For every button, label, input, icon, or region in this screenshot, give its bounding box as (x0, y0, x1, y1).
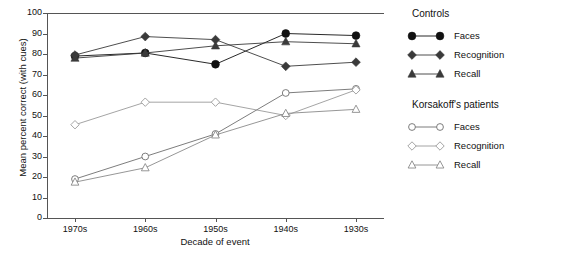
legend-item-label: Faces (454, 30, 480, 41)
legend-item-label: Recall (454, 159, 480, 170)
series-korsakoff-s-patients-recall (71, 105, 360, 185)
legend-item[interactable]: Recognition (404, 136, 556, 155)
filled-diamond-icon (404, 48, 450, 62)
legend-item-label: Recognition (454, 49, 504, 60)
legend-group-title-controls: Controls (412, 8, 556, 19)
filled-circle-icon (404, 29, 450, 43)
legend-group-title-korsakoff: Korsakoff's patients (412, 99, 556, 110)
open-circle-icon (404, 120, 450, 134)
filled-triangle-icon (404, 67, 450, 81)
legend-item-label: Faces (454, 121, 480, 132)
legend-items-controls: FacesRecognitionRecall (404, 26, 556, 83)
legend-item[interactable]: Recall (404, 64, 556, 83)
legend-items-korsakoff: FacesRecognitionRecall (404, 117, 556, 174)
legend-item[interactable]: Recall (404, 155, 556, 174)
open-diamond-icon (404, 139, 450, 153)
open-triangle-icon (404, 158, 450, 172)
legend-item[interactable]: Faces (404, 26, 556, 45)
series-controls-recall (71, 37, 360, 61)
legend: Controls FacesRecognitionRecall Korsakof… (404, 8, 556, 174)
legend-item[interactable]: Faces (404, 117, 556, 136)
series-korsakoff-s-patients-recognition (71, 86, 360, 129)
legend-item-label: Recognition (454, 140, 504, 151)
legend-item[interactable]: Recognition (404, 45, 556, 64)
chart-figure: Mean percent correct (with cues) Decade … (0, 0, 561, 258)
legend-item-label: Recall (454, 68, 480, 79)
